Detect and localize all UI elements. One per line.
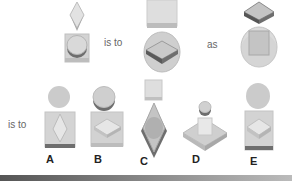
connector-as: as <box>207 39 218 50</box>
option-label-d[interactable]: D <box>192 153 200 165</box>
option-label-e[interactable]: E <box>250 155 257 167</box>
option-d-figure[interactable] <box>183 102 227 152</box>
option-label-c[interactable]: C <box>140 155 148 167</box>
option-b-figure[interactable] <box>91 87 123 148</box>
figure-1 <box>65 2 89 62</box>
circle-shape <box>246 83 270 109</box>
square-shape <box>249 31 269 55</box>
square-shape <box>198 118 212 135</box>
connector-is-to-1: is to <box>104 37 122 48</box>
option-label-b[interactable]: B <box>94 153 102 165</box>
circle-shape <box>145 117 163 139</box>
bottom-divider <box>0 175 292 181</box>
connector-is-to-2: is to <box>8 119 26 130</box>
option-a-figure[interactable] <box>45 86 75 148</box>
puzzle-figures <box>0 0 292 181</box>
figure-3 <box>241 2 277 67</box>
figure-2 <box>144 0 180 72</box>
option-c-figure[interactable] <box>141 80 167 158</box>
option-label-a[interactable]: A <box>46 153 54 165</box>
option-e-figure[interactable] <box>245 83 273 150</box>
circle-shape <box>48 86 70 108</box>
square-shape <box>147 0 177 26</box>
diamond-shape <box>70 2 84 28</box>
